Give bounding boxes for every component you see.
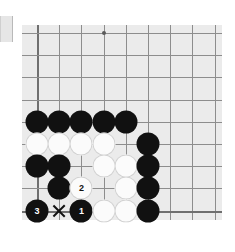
- stone-black-move-1[interactable]: 1: [70, 199, 93, 222]
- stone-black[interactable]: [26, 155, 49, 178]
- star-point-0: [102, 31, 106, 35]
- stone-white[interactable]: [26, 133, 49, 156]
- stone-black[interactable]: [92, 110, 115, 133]
- stone-white[interactable]: [114, 155, 137, 178]
- go-diagram-root: 231: [0, 0, 235, 252]
- stone-black[interactable]: [137, 199, 160, 222]
- move-number-label: 2: [79, 184, 84, 193]
- stone-white[interactable]: [92, 155, 115, 178]
- stone-black[interactable]: [114, 110, 137, 133]
- grid-line-horizontal-1: [22, 55, 222, 56]
- stone-white-move-2[interactable]: 2: [70, 177, 93, 200]
- left-edge-artifact: [0, 16, 13, 42]
- x-mark: [51, 203, 67, 219]
- stone-black[interactable]: [137, 133, 160, 156]
- stone-black[interactable]: [137, 155, 160, 178]
- move-number-label: 3: [34, 206, 39, 215]
- stone-black[interactable]: [48, 110, 71, 133]
- stone-white[interactable]: [114, 199, 137, 222]
- stone-black[interactable]: [137, 177, 160, 200]
- grid-line-horizontal-2: [22, 77, 222, 78]
- stone-white[interactable]: [114, 177, 137, 200]
- move-number-label: 1: [79, 206, 84, 215]
- stone-black[interactable]: [26, 110, 49, 133]
- stone-white[interactable]: [70, 133, 93, 156]
- go-board[interactable]: 231: [22, 25, 222, 220]
- stone-black[interactable]: [70, 110, 93, 133]
- stone-white[interactable]: [92, 199, 115, 222]
- stone-black[interactable]: [48, 177, 71, 200]
- stone-black-move-3[interactable]: 3: [26, 199, 49, 222]
- stone-white[interactable]: [92, 133, 115, 156]
- stone-white[interactable]: [48, 133, 71, 156]
- grid-line-horizontal-0: [22, 33, 222, 34]
- stone-black[interactable]: [48, 155, 71, 178]
- grid-line-horizontal-3: [22, 100, 222, 101]
